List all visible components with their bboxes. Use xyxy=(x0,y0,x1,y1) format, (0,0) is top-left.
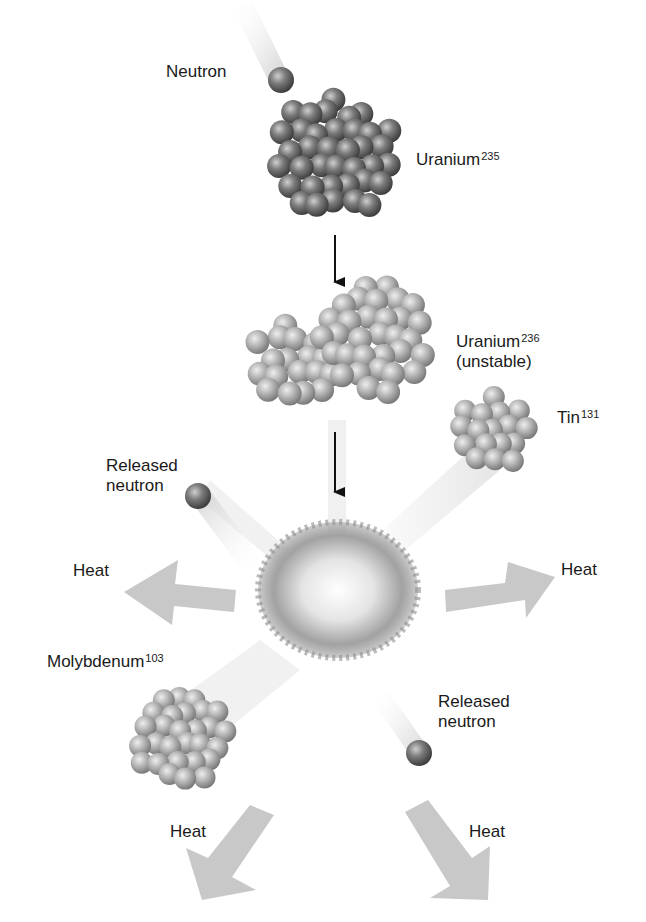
element-name: Tin xyxy=(557,408,580,427)
label-line-2: neutron xyxy=(106,476,178,496)
heat-arrow-bottom-right xyxy=(405,800,490,900)
released-neutron-2 xyxy=(372,690,432,766)
label-uranium-236: Uranium236 (unstable) xyxy=(456,332,540,372)
incoming-neutron xyxy=(232,0,294,93)
fission-diagram: Neutron Uranium235 Uranium236 (unstable)… xyxy=(0,0,646,922)
heat-arrow-left xyxy=(124,560,236,625)
mass-number: 235 xyxy=(481,150,499,162)
heat-arrow-right xyxy=(445,562,555,618)
stability-note: (unstable) xyxy=(456,352,540,372)
label-released-neutron-2: Released neutron xyxy=(438,692,510,732)
mass-number: 131 xyxy=(581,408,599,420)
label-heat-left: Heat xyxy=(73,561,109,581)
label-heat-right: Heat xyxy=(561,560,597,580)
label-line-2: neutron xyxy=(438,712,510,732)
label-incoming-neutron: Neutron xyxy=(166,62,226,82)
molybdenum-103-nucleus xyxy=(129,687,236,790)
element-name: Uranium xyxy=(456,332,520,351)
label-uranium-235: Uranium235 xyxy=(416,150,500,170)
label-line-1: Released xyxy=(438,692,510,712)
uranium-235-nucleus xyxy=(267,88,401,217)
diagram-graphics xyxy=(0,0,646,922)
mass-number: 103 xyxy=(145,652,163,664)
label-line-1: Released xyxy=(106,456,178,476)
label-tin-131: Tin131 xyxy=(557,408,599,428)
label-released-neutron-1: Released neutron xyxy=(106,456,178,496)
mass-number: 236 xyxy=(521,332,539,344)
label-heat-bottom-left: Heat xyxy=(170,822,206,842)
element-name: Molybdenum xyxy=(47,652,144,671)
element-name: Uranium xyxy=(416,150,480,169)
label-molybdenum-103: Molybdenum103 xyxy=(47,652,164,672)
uranium-236-nucleus xyxy=(246,276,435,406)
heat-arrow-bottom-left xyxy=(186,805,274,900)
label-heat-bottom-right: Heat xyxy=(469,822,505,842)
fission-explosion xyxy=(258,522,418,658)
